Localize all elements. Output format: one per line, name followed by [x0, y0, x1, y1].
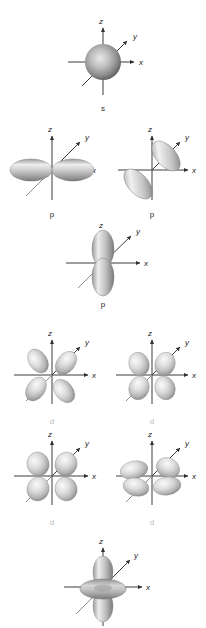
d-lobe-3	[21, 373, 50, 405]
orbital-p-x: z y x p	[10, 125, 97, 219]
p-lobe-negative-x	[10, 159, 52, 181]
z-axis-label: z	[47, 329, 52, 338]
orbital-label-p-z: p	[101, 300, 106, 309]
orbital-label-p-y: p	[150, 210, 155, 219]
orbital-shapes-figure: z y x s z y x p z y x	[0, 0, 206, 628]
d-lobe-4	[151, 373, 178, 402]
dz2-torus-hole	[94, 585, 112, 592]
y-axis-label: y	[133, 551, 139, 560]
d-lobe-2	[52, 449, 80, 478]
y-axis-label: y	[84, 133, 90, 142]
y-axis-label: y	[135, 227, 141, 236]
x-axis-label: x	[191, 166, 197, 175]
orbital-d-2: z y x d	[116, 329, 197, 426]
orbital-label-d-3: d	[50, 518, 54, 527]
d-lobe-4	[49, 375, 79, 407]
x-axis-label: x	[191, 472, 197, 481]
z-axis-label: z	[98, 17, 103, 26]
z-axis-label: z	[98, 537, 103, 546]
orbital-d-3: z y x d	[14, 430, 97, 527]
z-axis-label: z	[147, 329, 152, 338]
orbital-label-p-x: p	[50, 210, 55, 219]
y-axis-label: y	[84, 439, 90, 448]
z-axis-label: z	[147, 430, 152, 439]
x-axis-label: x	[91, 371, 97, 380]
orbital-label-d-4: d	[150, 518, 154, 527]
z-axis-label: z	[47, 430, 52, 439]
y-axis-label: y	[84, 338, 90, 347]
orbital-label-d-1: d	[50, 417, 54, 426]
s-orbital-sphere	[85, 44, 121, 80]
orbital-d-z2: z y x	[64, 537, 151, 626]
z-axis-label: z	[47, 125, 52, 134]
orbital-d-1: z y x d	[14, 329, 97, 426]
x-axis-label: x	[143, 259, 149, 268]
d-lobe-4	[152, 475, 182, 497]
d-lobe-1	[125, 349, 152, 378]
z-axis-label: z	[98, 221, 103, 230]
y-axis-label: y	[184, 133, 190, 142]
x-axis-label: x	[191, 371, 197, 380]
d-lobe-1	[24, 449, 52, 478]
x-axis-label: x	[145, 583, 151, 592]
d-lobe-3	[121, 475, 150, 498]
y-axis-label: y	[184, 439, 190, 448]
orbital-d-4: z y x d	[116, 430, 197, 527]
x-axis-label: x	[91, 472, 97, 481]
orbital-p-z: z y x p	[66, 221, 149, 309]
d-lobe-3	[125, 373, 152, 402]
y-axis-label: y	[184, 338, 190, 347]
p-lobe-positive-x	[52, 159, 94, 181]
d-lobe-2	[51, 347, 81, 379]
orbital-p-y: z y x p	[118, 125, 197, 219]
z-axis-label: z	[147, 125, 152, 134]
y-axis-label: y	[132, 32, 138, 41]
p-lobe-negative-z	[92, 258, 114, 296]
d-lobe-4	[52, 474, 80, 503]
orbital-label-d-2: d	[150, 417, 154, 426]
orbital-s: z y x s	[68, 17, 144, 113]
orbital-label-s: s	[101, 104, 105, 113]
x-axis-label: x	[138, 58, 144, 67]
d-lobe-2	[151, 349, 178, 378]
d-lobe-1	[23, 345, 52, 377]
